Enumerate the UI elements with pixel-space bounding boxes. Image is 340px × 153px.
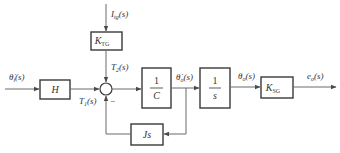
feedback-sign: −	[110, 96, 115, 106]
omega-out-label: θ̇o(s)	[176, 72, 193, 83]
disturbance-signal-label: Itg(s)	[110, 9, 128, 20]
block-diagram: θ̇i(s) H T1(s) Itg(s) KTG T2(s) − 1 C θ̇…	[0, 0, 340, 153]
inv-c-denominator: C	[153, 90, 160, 101]
theta-out-label: θo(s)	[238, 71, 255, 82]
input-signal-label: θ̇i(s)	[9, 72, 25, 83]
js-block-label: Js	[143, 129, 151, 140]
integrator-numerator: 1	[213, 75, 218, 86]
t2-signal-label: T2(s)	[111, 62, 129, 73]
summing-junction	[100, 83, 112, 95]
h-block-label: H	[50, 84, 59, 95]
integrator-denominator: s	[213, 90, 217, 101]
inv-c-numerator: 1	[154, 75, 159, 86]
t1-signal-label: T1(s)	[79, 96, 97, 107]
output-signal-label: eo(s)	[307, 71, 324, 82]
